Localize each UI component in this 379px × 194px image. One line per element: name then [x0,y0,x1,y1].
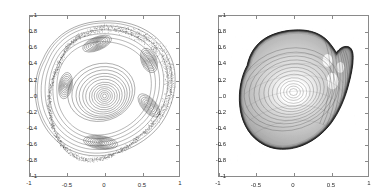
x-tick [256,173,257,176]
y-tick-right [365,32,368,33]
y-tick-label: -1 [221,173,226,179]
x-tick-label: 0.5 [327,182,335,188]
x-tick-top [332,16,333,19]
y-tick-label: -0.8 [216,157,226,163]
panel-poincare-section: 1 0.8 0.6 0.4 0.2 0 -0.2 -0.4 -0.6 -0.8 … [0,0,189,194]
y-tick-label: -0.2 [27,109,37,115]
y-tick-right [176,81,179,82]
y-tick-label: -0.2 [216,109,226,115]
y-tick-label: -0.6 [216,141,226,147]
x-tick-top [67,16,68,19]
y-tick-label: 0 [223,93,226,99]
x-tick-top [105,16,106,19]
central-tori [60,55,142,130]
x-tick-top [256,16,257,19]
x-tick-top [294,16,295,19]
y-tick-label: 0.8 [29,28,37,34]
y-tick-right [176,48,179,49]
y-tick-label: -0.4 [216,125,226,131]
panel-husimi-contour: 1 0.8 0.6 0.4 0.2 0 -0.2 -0.4 -0.6 -0.8 … [190,0,379,194]
right-axes [218,15,369,177]
x-tick [294,173,295,176]
y-tick-right [176,97,179,98]
x-tick-label: -1 [26,180,31,186]
y-tick-right [176,113,179,114]
x-tick-label: 1 [178,180,181,186]
y-tick-right [365,129,368,130]
y-tick-label: 1 [34,12,37,18]
y-tick-right [176,129,179,130]
y-tick-right [176,32,179,33]
y-tick-label: -0.4 [27,125,37,131]
poincare-plot-svg [30,16,179,176]
y-tick-right [365,48,368,49]
husimi-plot-svg [219,16,368,176]
y-tick-right [365,64,368,65]
y-tick-label: 0.4 [218,60,226,66]
y-tick-label: 0.2 [29,77,37,83]
x-tick [67,173,68,176]
y-tick-label: 0.4 [29,60,37,66]
left-axes [29,15,180,177]
y-tick-right [176,161,179,162]
y-tick [30,97,33,98]
y-tick-right [365,81,368,82]
y-tick-label: 0.8 [218,28,226,34]
x-tick [143,173,144,176]
x-tick-top [143,16,144,19]
figure-container: 1 0.8 0.6 0.4 0.2 0 -0.2 -0.4 -0.6 -0.8 … [0,0,379,194]
x-tick-label: 0 [102,182,105,188]
y-tick [219,16,222,17]
y-tick-label: 0 [34,93,37,99]
y-tick-right [176,145,179,146]
x-tick-label: -1 [215,180,220,186]
y-tick-right [365,145,368,146]
x-tick [105,173,106,176]
x-tick-label: 0.5 [138,182,146,188]
y-tick-label: -1 [32,173,37,179]
x-tick-label: -0.5 [62,182,72,188]
y-tick-right [365,97,368,98]
y-tick-label: 0.6 [29,44,37,50]
y-tick-label: -0.8 [27,157,37,163]
x-tick-label: 0 [291,182,294,188]
x-tick-label: -0.5 [251,182,261,188]
y-tick-label: 1 [223,12,226,18]
y-tick-label: 0.6 [218,44,226,50]
y-tick-right [176,64,179,65]
y-tick-right [365,113,368,114]
x-tick [332,173,333,176]
y-tick [219,97,222,98]
x-tick-label: 1 [367,180,370,186]
y-tick-label: -0.6 [27,141,37,147]
y-tick-right [365,161,368,162]
y-tick-label: 0.2 [218,77,226,83]
y-tick [30,16,33,17]
